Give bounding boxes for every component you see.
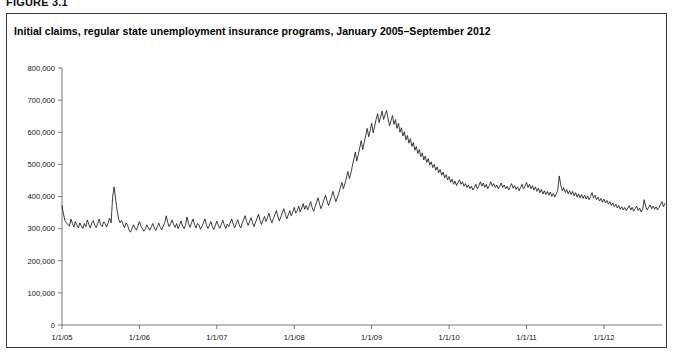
data-series-line bbox=[62, 110, 665, 232]
x-tick-label: 1/1/10 bbox=[439, 333, 460, 342]
y-tick-label: 200,000 bbox=[28, 257, 55, 266]
x-tick-label: 1/1/05 bbox=[51, 333, 72, 342]
y-tick-label: 800,000 bbox=[28, 64, 55, 73]
y-tick-label: 0 bbox=[51, 321, 55, 330]
y-axis-ticks: 0100,000200,000300,000400,000500,000600,… bbox=[28, 64, 62, 330]
x-tick-label: 1/1/09 bbox=[361, 333, 382, 342]
x-tick-label: 1/1/11 bbox=[516, 333, 537, 342]
chart-plot-area: 0100,000200,000300,000400,000500,000600,… bbox=[0, 0, 673, 353]
y-tick-label: 300,000 bbox=[28, 224, 55, 233]
x-axis-ticks: 1/1/051/1/061/1/071/1/081/1/091/1/101/1/… bbox=[51, 325, 614, 342]
y-tick-label: 600,000 bbox=[28, 128, 55, 137]
x-tick-label: 1/1/07 bbox=[206, 333, 227, 342]
x-tick-label: 1/1/08 bbox=[284, 333, 305, 342]
y-tick-label: 700,000 bbox=[28, 96, 55, 105]
y-tick-label: 400,000 bbox=[28, 192, 55, 201]
line-chart-svg: 0100,000200,000300,000400,000500,000600,… bbox=[0, 0, 673, 353]
y-tick-label: 500,000 bbox=[28, 160, 55, 169]
figure-container: FIGURE 3.1 Initial claims, regular state… bbox=[0, 0, 673, 353]
y-tick-label: 100,000 bbox=[28, 289, 55, 298]
x-tick-label: 1/1/06 bbox=[129, 333, 150, 342]
x-tick-label: 1/1/12 bbox=[593, 333, 614, 342]
